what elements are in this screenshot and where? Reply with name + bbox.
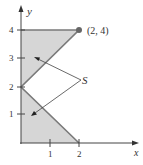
y-tick-label-2: 2 <box>9 82 14 92</box>
x-tick-label-1: 1 <box>48 149 53 159</box>
region-s <box>21 30 79 143</box>
y-axis-label: y <box>26 5 32 17</box>
region-diagram: y x 4 3 2 1 1 2 (2, 4) S <box>0 0 143 165</box>
x-axis-label: x <box>133 147 139 158</box>
pointer-line-lower <box>35 80 81 113</box>
point-label: (2, 4) <box>87 25 109 37</box>
point-marker <box>76 27 82 33</box>
x-axis-arrow-icon <box>132 141 139 146</box>
x-tick-label-2: 2 <box>77 149 82 159</box>
y-tick-label-3: 3 <box>9 53 14 63</box>
y-tick-label-4: 4 <box>9 25 14 35</box>
y-tick-label-1: 1 <box>9 109 14 119</box>
y-axis-arrow-icon <box>19 5 24 12</box>
pointer-line-upper <box>38 59 81 80</box>
region-label: S <box>82 74 88 86</box>
